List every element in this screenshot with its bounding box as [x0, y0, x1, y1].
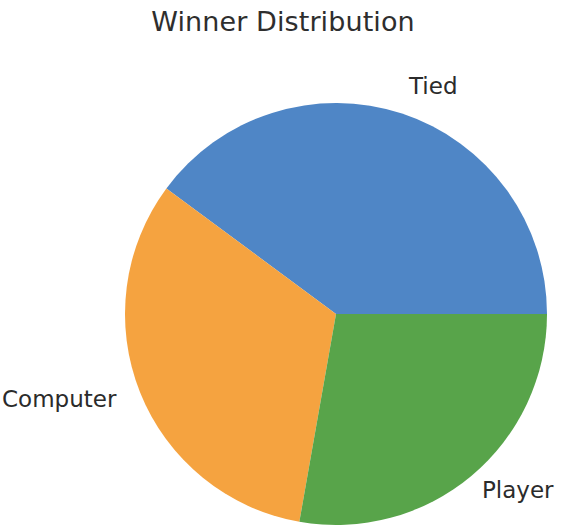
pie-svg: [0, 0, 566, 526]
wedge-label-computer: Computer: [2, 388, 116, 411]
wedge-label-tied: Tied: [409, 75, 457, 98]
pie-plot-area: Tied Computer Player: [0, 0, 566, 526]
pie-wedge-group: [125, 103, 547, 525]
pie-chart-figure: Winner Distribution Tied Computer Player: [0, 0, 566, 526]
wedge-label-player: Player: [482, 479, 554, 502]
